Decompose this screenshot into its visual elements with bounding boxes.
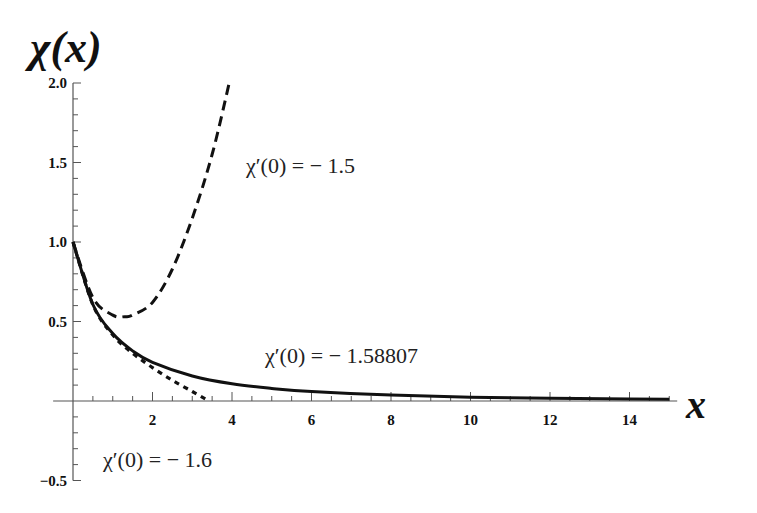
y-axis-title: χ(x)	[24, 23, 102, 72]
x-axis-title: x	[685, 382, 706, 427]
y-tick-label: −0.5	[40, 473, 67, 489]
y-tick-label: 0.5	[48, 314, 67, 330]
curve-solid	[73, 242, 669, 399]
x-tick-label: 8	[387, 412, 395, 428]
axes: 2468101214−0.50.51.01.52.0	[40, 75, 678, 489]
x-tick-label: 10	[463, 412, 478, 428]
x-tick-label: 14	[622, 412, 638, 428]
y-tick-label: 1.0	[48, 234, 67, 250]
annotation-slope-1-58807: χ′(0) = − 1.58807	[264, 343, 418, 368]
y-tick-label: 1.5	[48, 155, 67, 171]
chart: 2468101214−0.50.51.01.52.0 χ(x) x χ′(0) …	[0, 0, 757, 513]
x-tick-label: 4	[228, 412, 236, 428]
x-tick-label: 12	[543, 412, 558, 428]
x-tick-label: 6	[308, 412, 316, 428]
curve-dashed	[73, 83, 229, 317]
x-tick-label: 2	[149, 412, 157, 428]
annotation-slope-1-6: χ′(0) = − 1.6	[102, 447, 212, 472]
curve-dotted	[73, 242, 209, 401]
annotation-slope-1-5: χ′(0) = − 1.5	[245, 153, 355, 178]
y-tick-label: 2.0	[48, 75, 67, 91]
